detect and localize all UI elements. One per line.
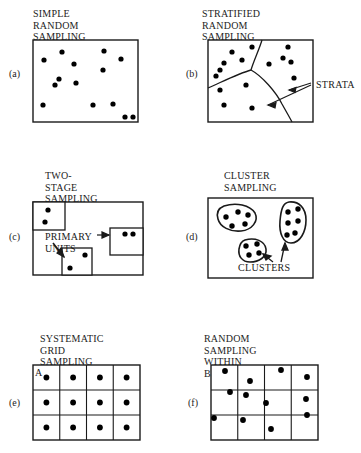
- panel-f-plot: [0, 0, 361, 453]
- sampling-designs-figure: SIMPLE RANDOM SAMPLING (a): [0, 0, 361, 453]
